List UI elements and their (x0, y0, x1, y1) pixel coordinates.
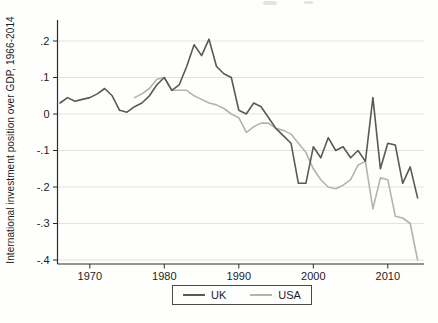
legend-item-uk: UK (183, 290, 226, 301)
legend-item-usa: USA (250, 290, 301, 301)
legend: UK USA (172, 285, 312, 305)
cropped-text-artifact (263, 1, 277, 5)
x-tick-label: 2000 (301, 270, 325, 282)
uk-line-sample-icon (183, 294, 205, 296)
y-tick-label: -.3 (37, 217, 50, 229)
y-tick-label: .1 (40, 71, 49, 83)
x-tick-label: 1990 (227, 270, 251, 282)
y-tick-label: 0 (43, 108, 49, 120)
x-tick-label: 1970 (78, 270, 102, 282)
y-tick-label: -.2 (37, 181, 50, 193)
cropped-text-artifact (304, 1, 313, 4)
plot-area: .2.10-.1-.2-.3-.419701980199020002010 (0, 0, 438, 323)
line-chart-figure: .2.10-.1-.2-.3-.419701980199020002010 In… (0, 0, 438, 323)
y-tick-label: -.1 (37, 144, 50, 156)
legend-label-uk: UK (211, 290, 226, 301)
x-tick-label: 1980 (152, 270, 176, 282)
x-tick-label: 2010 (376, 270, 400, 282)
legend-label-usa: USA (278, 290, 301, 301)
usa-line (135, 78, 418, 261)
y-tick-label: -.4 (37, 254, 50, 266)
y-tick-label: .2 (40, 35, 49, 47)
usa-line-sample-icon (250, 294, 272, 296)
y-axis-label: International investment position over G… (5, 10, 21, 270)
